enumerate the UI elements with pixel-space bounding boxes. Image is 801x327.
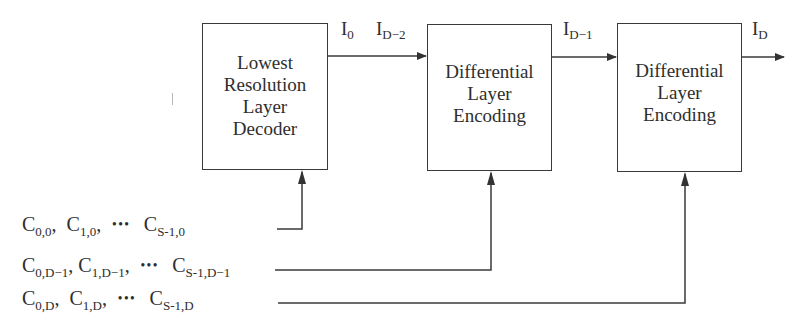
feed-row2 xyxy=(278,174,685,303)
signal-label-i0: I0 xyxy=(341,18,354,43)
coefficient-row-1: C0,D−1, C1,D−1, ••• CS-1,D−1 xyxy=(22,254,230,281)
signal-label-id-minus-2: ID−2 xyxy=(376,18,406,43)
feed-row1 xyxy=(275,173,491,270)
block-label-line: Layer xyxy=(203,96,327,118)
stray-mark xyxy=(172,93,173,105)
signal-label-id-minus-1: ID−1 xyxy=(563,18,593,43)
block-label-line: Lowest xyxy=(203,52,327,74)
block-label-line: Differential xyxy=(618,60,741,82)
lowest-resolution-decoder-block: Lowest Resolution Layer Decoder xyxy=(202,23,328,170)
block-label-line: Decoder xyxy=(203,118,327,140)
block-label-line: Differential xyxy=(428,61,551,83)
differential-layer-encoding-block-2: Differential Layer Encoding xyxy=(617,23,742,172)
block-label-line: Encoding xyxy=(618,104,741,126)
block-label-line: Layer xyxy=(618,82,741,104)
differential-layer-encoding-block-1: Differential Layer Encoding xyxy=(427,24,552,171)
block-label-line: Resolution xyxy=(203,74,327,96)
coefficient-row-2: C0,D, C1,D, ••• CS-1,D xyxy=(22,287,194,314)
signal-label-id: ID xyxy=(752,18,768,43)
block-label-line: Encoding xyxy=(428,105,551,127)
block-label-line: Layer xyxy=(428,83,551,105)
feed-row0 xyxy=(277,172,302,229)
coefficient-row-0: C0,0, C1,0, ••• CS-1,0 xyxy=(22,213,185,240)
